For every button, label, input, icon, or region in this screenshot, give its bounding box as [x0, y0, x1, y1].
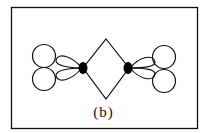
- figure-label: (b): [0, 104, 207, 121]
- right-lower-circle: [153, 70, 176, 93]
- left-lower-lobe: [56, 68, 82, 80]
- left-orbital-group: [33, 45, 88, 91]
- left-upper-lobe: [56, 56, 82, 68]
- left-lower-circle: [33, 68, 56, 91]
- right-upper-circle: [153, 46, 176, 69]
- left-upper-circle: [33, 45, 56, 68]
- right-filled-lobe: [124, 62, 133, 74]
- right-orbital-group: [124, 46, 176, 93]
- diamond-shape: [83, 39, 129, 99]
- left-filled-lobe: [79, 62, 88, 74]
- right-upper-lobe: [130, 57, 155, 68]
- right-lower-lobe: [130, 68, 155, 79]
